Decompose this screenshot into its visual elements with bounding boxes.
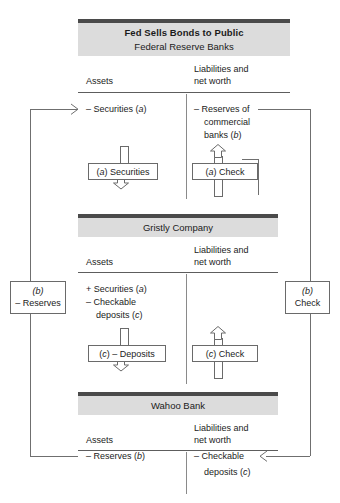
panel-3-title-band: Wahoo Bank	[78, 396, 278, 415]
panel-1-liability-entry-line1: – Reserves of	[194, 103, 250, 116]
panel-2-liabilities-header-line1: Liabilities and	[194, 245, 249, 256]
panel-2-header-rule	[78, 272, 278, 273]
side-box-left-line2: – Reserves	[11, 297, 65, 309]
panel-2-title-band: Gristly Company	[78, 218, 278, 237]
panel-2-asset-entry-line3: deposits (c)	[96, 309, 143, 322]
panel-2-subtitle: Gristly Company	[78, 222, 278, 233]
box-c-check: (c) Check	[192, 345, 258, 362]
arrowhead-right-to-checkable-deposits-icon	[258, 450, 272, 463]
panel-3-asset-entry-line1: – Reserves (b)	[86, 450, 145, 463]
arrowhead-c-check-up-icon	[209, 326, 227, 340]
panel-1-liabilities-header-line1: Liabilities and	[194, 64, 249, 75]
side-box-left-reserves: (b) – Reserves	[10, 281, 66, 314]
box-c-deposits: (c) – Deposits	[88, 345, 166, 362]
connector-a-check-right-stub	[258, 159, 259, 195]
box-c-check-label: (c) Check	[206, 349, 245, 359]
box-a-securities: (a) Securities	[88, 163, 158, 180]
box-c-deposits-label: (c) – Deposits	[99, 349, 155, 359]
panel-2-asset-entry-line1: + Securities (a)	[86, 283, 147, 296]
panel-1-liability-entry-line3: banks (b)	[204, 129, 242, 142]
panel-1-asset-entry: – Securities (a)	[86, 103, 147, 116]
panel-3-liability-entry-line2: deposits (c)	[204, 466, 251, 479]
side-box-right-check: (b) Check	[285, 281, 330, 314]
arrow-shaft-check-from-below	[214, 179, 223, 197]
arrowhead-left-to-securities-icon	[70, 103, 84, 116]
connector-right-bottom-horizontal	[266, 456, 310, 457]
box-a-check-label: (a) Check	[205, 167, 244, 177]
connector-a-check-right-join	[242, 159, 259, 160]
arrowhead-check-up-icon	[209, 144, 227, 158]
panel-2-assets-header: Assets	[86, 257, 113, 268]
panel-3-liabilities-header-line2: net worth	[194, 435, 231, 446]
panel-3-subtitle: Wahoo Bank	[78, 400, 278, 411]
panel-3-assets-header: Assets	[86, 435, 113, 446]
box-a-securities-label: (a) Securities	[96, 167, 149, 177]
arrow-shaft-c-check-from-below	[214, 361, 223, 379]
panel-1-column-divider	[186, 94, 187, 199]
panel-1-liabilities-header-line2: net worth	[194, 76, 231, 87]
panel-3-column-divider	[186, 452, 187, 494]
side-box-right-line1: (b)	[286, 285, 329, 297]
panel-2-asset-entry-line2: – Checkable	[86, 296, 136, 309]
side-box-left-line1: (b)	[11, 285, 65, 297]
box-a-check: (a) Check	[192, 163, 258, 180]
panel-1-subtitle: Federal Reserve Banks	[78, 41, 290, 52]
panel-1-title-band: Fed Sells Bonds to Public Federal Reserv…	[78, 23, 290, 56]
connector-left-bottom-horizontal	[30, 456, 78, 457]
panel-2-liabilities-header-line2: net worth	[194, 257, 231, 268]
panel-1-assets-header: Assets	[86, 76, 113, 87]
diagram-canvas: (b) – Reserves (b) Check Fed Sells Bonds…	[0, 0, 340, 503]
diagram-title: Fed Sells Bonds to Public	[78, 27, 290, 38]
panel-1-header-rule	[78, 92, 290, 93]
connector-right-top-horizontal	[258, 109, 310, 110]
panel-2-column-divider	[186, 274, 187, 384]
panel-1-liability-entry-line2: commercial	[204, 116, 250, 129]
panel-3-liability-entry-line1: – Checkable	[194, 450, 244, 463]
side-box-right-line2: Check	[286, 297, 329, 309]
panel-3-liabilities-header-line1: Liabilities and	[194, 423, 249, 434]
